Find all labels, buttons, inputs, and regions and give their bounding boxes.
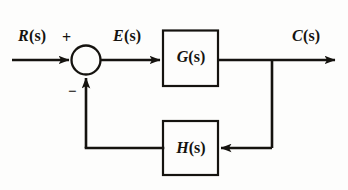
label-input-signal: R(s) [18, 28, 46, 44]
block-h-label: H(s) [163, 140, 219, 156]
block-g-label: G(s) [163, 49, 219, 65]
label-output-signal: C(s) [292, 28, 320, 44]
summing-junction-plus-sign: + [62, 29, 71, 47]
summing-junction-circle [72, 46, 101, 75]
summing-junction-minus-sign: − [68, 83, 77, 100]
label-error-signal: E(s) [113, 28, 141, 44]
block-diagram: R(s) + − E(s) C(s) G(s) H(s) [0, 0, 348, 190]
